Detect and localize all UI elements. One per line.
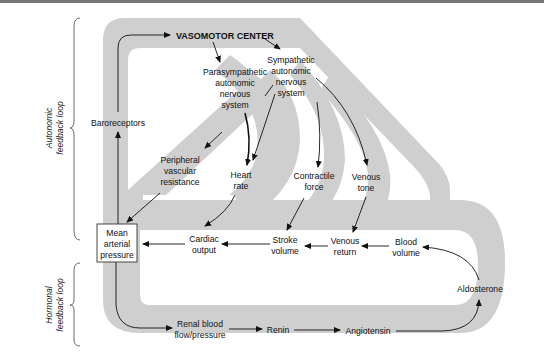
peripheral-vascular-resistance-label: Peripheral vascular resistance [160,155,199,187]
svg-text:autonomic: autonomic [271,66,311,76]
angiotensin-label: Angiotensin [346,326,391,336]
svg-text:Cardiac: Cardiac [189,234,219,244]
svg-text:nervous: nervous [220,89,251,99]
svg-text:Autonomic: Autonomic [44,107,54,149]
hormonal-brace [70,263,80,346]
autonomic-brace [70,18,80,240]
renal-blood-flow-label: Renal blood flow/pressure [174,319,225,340]
hormonal-loop-label: Hormonal feedback loop [44,278,65,332]
svg-text:system: system [277,88,304,98]
svg-text:Venous: Venous [331,236,360,246]
svg-text:resistance: resistance [160,177,199,187]
baroreceptors-label: Baroreceptors [91,118,145,128]
svg-text:Peripheral: Peripheral [160,155,199,165]
svg-text:Venous: Venous [352,172,381,182]
mean-arterial-pressure-box: Mean arterial pressure [97,224,137,262]
svg-text:Mean: Mean [106,228,128,238]
svg-text:Blood: Blood [395,237,417,247]
svg-text:Hormonal: Hormonal [44,285,54,323]
svg-text:return: return [334,247,357,257]
svg-text:nervous: nervous [276,77,307,87]
svg-text:output: output [192,245,217,255]
renin-label: Renin [267,325,290,335]
blood-volume-label: Blood volume [392,237,420,258]
cardiac-output-label: Cardiac output [189,234,219,255]
svg-text:Renal blood: Renal blood [177,319,223,329]
aldosterone-label: Aldosterone [457,284,503,294]
svg-text:Contractile: Contractile [293,171,334,181]
vasomotor-center-label: VASOMOTOR CENTER [176,31,274,41]
svg-text:tone: tone [358,183,375,193]
svg-text:flow/pressure: flow/pressure [174,330,225,340]
feedback-diagram: Autonomic feedback loop Hormonal feedbac… [0,0,544,359]
svg-text:feedback loop: feedback loop [55,101,65,155]
svg-text:volume: volume [392,248,420,258]
venous-return-label: Venous return [331,236,360,257]
autonomic-loop-label: Autonomic feedback loop [44,101,65,155]
svg-text:rate: rate [234,181,249,191]
svg-text:Parasympathetic: Parasympathetic [203,67,268,77]
svg-text:volume: volume [271,246,299,256]
svg-text:system: system [221,100,248,110]
svg-text:Sympathetic: Sympathetic [267,55,315,65]
svg-text:Stroke: Stroke [273,235,298,245]
svg-text:arterial: arterial [104,239,130,249]
svg-text:Heart: Heart [230,170,252,180]
stroke-volume-label: Stroke volume [271,235,299,256]
svg-text:vascular: vascular [164,166,196,176]
svg-text:autonomic: autonomic [215,78,255,88]
svg-text:feedback loop: feedback loop [55,278,65,332]
svg-text:pressure: pressure [100,250,134,260]
svg-text:force: force [304,182,323,192]
